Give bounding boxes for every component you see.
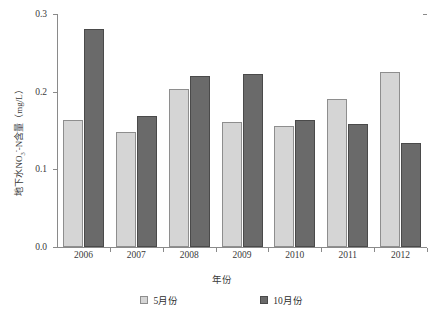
bar-may-2012[interactable] xyxy=(380,72,400,247)
bar-group: 2008 xyxy=(163,14,216,247)
bar-october-2009[interactable] xyxy=(243,74,263,247)
chart-figure: 地下水NO3--N含量（mg/L） 0.00.10.20.3 200620072… xyxy=(0,0,443,314)
y-tick-label: 0.2 xyxy=(35,87,47,97)
x-tick-label-2011: 2011 xyxy=(321,250,374,260)
x-tick-label-2008: 2008 xyxy=(163,250,216,260)
legend-swatch-october-icon xyxy=(260,296,268,304)
bar-group: 2012 xyxy=(374,14,427,247)
legend-item-may[interactable]: 5月份 xyxy=(140,293,178,307)
y-axis-title: 地下水NO3--N含量（mg/L） xyxy=(9,60,29,220)
plot-area: 0.00.10.20.3 200620072008200920102011201… xyxy=(57,14,427,248)
y-axis-title-prefix: 地下水NO xyxy=(14,155,24,195)
y-axis-title-subscript: 3 xyxy=(18,152,25,155)
bar-october-2011[interactable] xyxy=(348,124,368,247)
bar-group: 2006 xyxy=(57,14,110,247)
bar-group: 2009 xyxy=(216,14,269,247)
y-axis-title-text: 地下水NO3--N含量（mg/L） xyxy=(11,85,28,195)
x-tick-label-2006: 2006 xyxy=(57,250,110,260)
x-tick-mark xyxy=(427,248,428,252)
bar-may-2006[interactable] xyxy=(63,120,83,247)
bar-may-2010[interactable] xyxy=(274,126,294,247)
x-tick-label-2007: 2007 xyxy=(110,250,163,260)
bar-october-2006[interactable] xyxy=(84,29,104,247)
legend-label-may: 5月份 xyxy=(153,293,178,307)
bar-october-2012[interactable] xyxy=(401,143,421,247)
y-axis-title-suffix: -N含量（mg/L） xyxy=(14,85,24,150)
x-tick-label-2012: 2012 xyxy=(374,250,427,260)
y-tick-label: 0.1 xyxy=(35,164,47,174)
legend-label-october: 10月份 xyxy=(273,293,303,307)
legend-swatch-may-icon xyxy=(140,296,148,304)
bar-group: 2007 xyxy=(110,14,163,247)
bar-may-2009[interactable] xyxy=(222,122,242,247)
x-axis-line xyxy=(57,247,427,248)
x-axis-title: 年份 xyxy=(0,272,443,286)
chart-title xyxy=(196,0,336,4)
y-tick-mark: 0.0 xyxy=(53,247,57,248)
y-tick-label: 0.0 xyxy=(35,242,47,252)
bar-october-2010[interactable] xyxy=(295,120,315,247)
bar-october-2008[interactable] xyxy=(190,76,210,247)
x-tick-label-2010: 2010 xyxy=(268,250,321,260)
x-tick-label-2009: 2009 xyxy=(216,250,269,260)
bar-october-2007[interactable] xyxy=(137,116,157,247)
legend-item-october[interactable]: 10月份 xyxy=(260,293,303,307)
bar-may-2008[interactable] xyxy=(169,89,189,247)
bar-group: 2011 xyxy=(321,14,374,247)
bar-may-2011[interactable] xyxy=(327,99,347,247)
chart-legend: 5月份 10月份 xyxy=(0,293,443,307)
y-tick-label: 0.3 xyxy=(35,9,47,19)
bar-may-2007[interactable] xyxy=(116,132,136,247)
bar-group: 2010 xyxy=(268,14,321,247)
